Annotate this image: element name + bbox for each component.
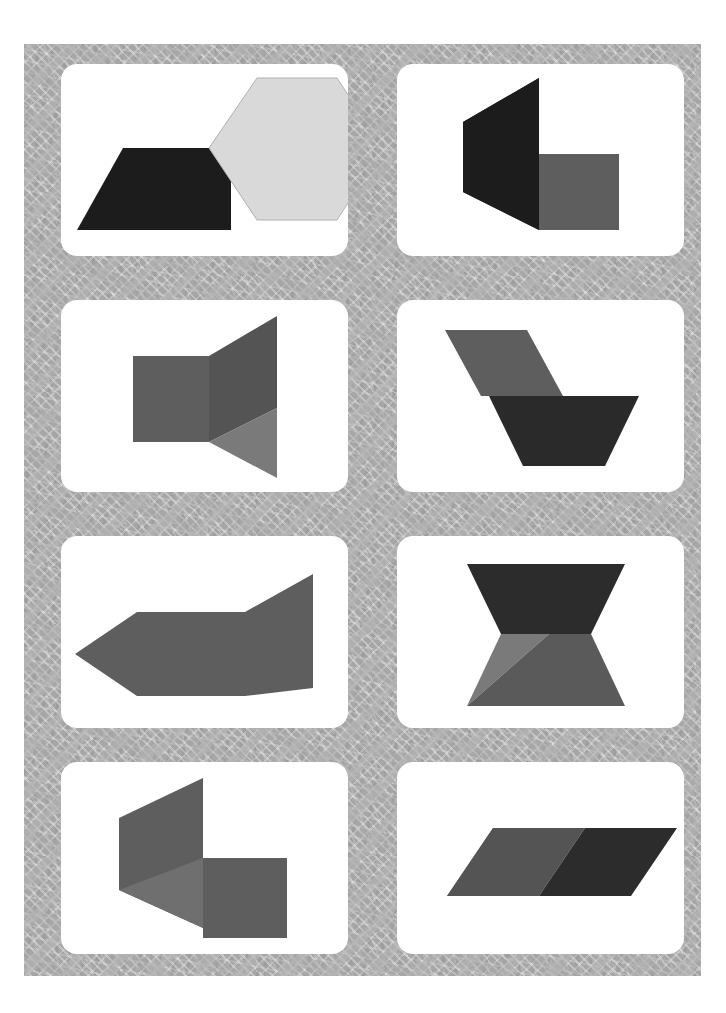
gray-square: [203, 858, 287, 938]
card-triangle-two-parallelograms-figure: [397, 762, 684, 954]
card-arrow-square-panel-figure: [61, 536, 348, 728]
card-black-chevron-gray-square-figure: [397, 64, 684, 256]
dark-trapezoid: [77, 148, 231, 230]
card-parallelogram-over-trapezoid-figure: [397, 300, 684, 492]
card-parallelogram-over-trapezoid[interactable]: [397, 300, 684, 492]
page-root: [0, 0, 726, 1013]
card-square-with-fan[interactable]: [61, 300, 348, 492]
card-square-with-fan-figure: [61, 300, 348, 492]
gray-parallelogram: [445, 330, 563, 396]
card-trapezoid-hexagon[interactable]: [61, 64, 348, 256]
card-trapezoid-hexagon-figure: [61, 64, 348, 256]
card-gray-chevron-gray-square[interactable]: [61, 762, 348, 954]
dark-trapezoid: [489, 396, 639, 466]
center-square: [137, 612, 245, 696]
dark-upper-trapezoid: [467, 564, 625, 634]
gray-square: [539, 154, 619, 230]
card-hourglass-bowtie[interactable]: [397, 536, 684, 728]
card-gray-chevron-gray-square-figure: [61, 762, 348, 954]
right-panel: [245, 574, 313, 696]
gray-square: [133, 356, 209, 442]
left-triangle: [75, 612, 137, 696]
black-left-wedge: [463, 78, 539, 230]
card-triangle-two-parallelograms[interactable]: [397, 762, 684, 954]
card-arrow-square-panel[interactable]: [61, 536, 348, 728]
card-hourglass-bowtie-figure: [397, 536, 684, 728]
card-black-chevron-gray-square[interactable]: [397, 64, 684, 256]
